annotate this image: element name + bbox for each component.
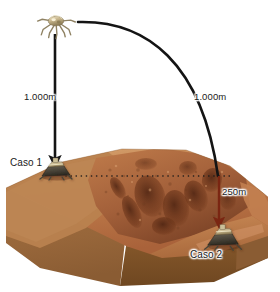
label-caso-1: Caso 1 (10, 158, 42, 168)
terrain-block (6, 148, 270, 286)
label-arc-drop-distance: 1.000m (194, 92, 226, 102)
label-caso-2: Caso 2 (190, 250, 222, 260)
diagram-canvas: 1.000m 1.000m 250m Caso 1 Caso 2 (0, 0, 280, 292)
label-vertical-drop-distance: 1.000m (24, 92, 56, 102)
label-extra-fall-distance: 250m (222, 187, 246, 197)
lander-top (38, 16, 76, 39)
mars-drop-diagram (0, 0, 280, 292)
